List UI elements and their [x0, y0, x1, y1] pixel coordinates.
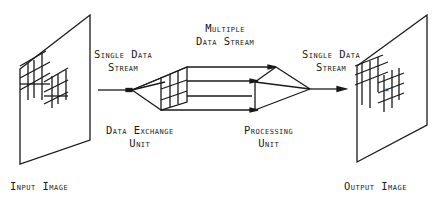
dxu-line1: Data Exchange: [106, 124, 174, 137]
input-image-panel: [20, 15, 90, 164]
multiple-line2: Data Stream: [196, 35, 254, 48]
output-image-label: Output Image: [344, 180, 407, 193]
single-in-line1: Single Data: [94, 48, 152, 61]
pu-line2: Unit: [244, 137, 293, 150]
single-out-line2: Stream: [302, 61, 360, 74]
single-data-stream-out-label: Single Data Stream: [302, 48, 360, 74]
input-image-label: Input Image: [10, 180, 68, 193]
input-image-grid: [20, 51, 68, 108]
single-out-line1: Single Data: [302, 48, 360, 61]
single-data-stream-in-label: Single Data Stream: [94, 48, 152, 74]
multiple-data-stream-label: Multiple Data Stream: [196, 22, 254, 48]
pu-line1: Processing: [244, 124, 293, 137]
data-exchange-unit: [161, 67, 187, 110]
output-image-grid: [355, 55, 404, 112]
processing-unit-label: Processing Unit: [244, 124, 293, 150]
data-exchange-unit-label: Data Exchange Unit: [106, 124, 174, 150]
dxu-line2: Unit: [106, 137, 174, 150]
multiple-line1: Multiple: [196, 22, 254, 35]
single-in-line2: Stream: [94, 61, 152, 74]
marked-pixel-icon: ×: [385, 86, 389, 94]
